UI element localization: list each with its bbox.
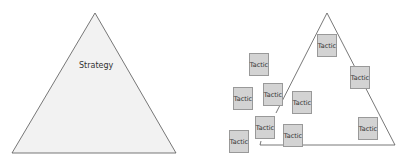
tactic-box: Tactic bbox=[229, 130, 249, 153]
tactic-box: Tactic bbox=[292, 91, 312, 114]
tactic-box: Tactic bbox=[283, 124, 303, 147]
tactic-box: Tactic bbox=[249, 53, 269, 76]
tactic-box: Tactic bbox=[358, 117, 378, 140]
tactic-box: Tactic bbox=[350, 66, 370, 89]
tactic-box: Tactic bbox=[233, 87, 253, 110]
strategy-triangle bbox=[12, 13, 176, 153]
strategy-label: Strategy bbox=[79, 61, 113, 70]
tactic-box: Tactic bbox=[263, 83, 283, 106]
tactic-box: Tactic bbox=[317, 34, 337, 57]
tactic-box: Tactic bbox=[255, 116, 275, 139]
diagram-lines bbox=[0, 0, 403, 161]
